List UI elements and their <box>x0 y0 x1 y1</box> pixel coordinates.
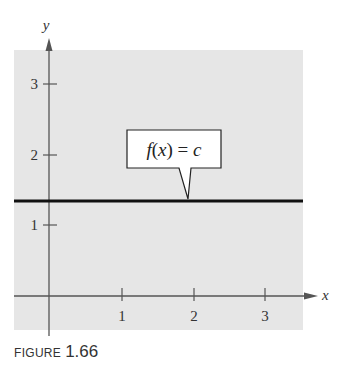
y-axis-label: y <box>41 17 50 33</box>
y-tick-label-1: 1 <box>31 217 39 233</box>
y-tick-label-2: 2 <box>31 147 39 163</box>
figure-caption: FIGURE1.66 <box>14 342 98 362</box>
y-tick-label-3: 3 <box>31 76 39 92</box>
x-axis-label: x <box>321 287 329 303</box>
y-axis-arrow-icon <box>46 38 53 51</box>
x-tick-label-3: 3 <box>261 308 269 324</box>
x-tick-label-2: 2 <box>190 308 198 324</box>
callout-label: f(x) = c <box>146 139 202 161</box>
figure-number: 1.66 <box>65 342 98 361</box>
x-tick-label-1: 1 <box>118 308 126 324</box>
constant-function-plot: y x 1 2 3 3 2 1 f(x) = c <box>0 0 340 340</box>
x-axis-arrow-icon <box>304 293 318 300</box>
plot-background <box>14 50 303 330</box>
figure-word: FIGURE <box>14 346 61 360</box>
